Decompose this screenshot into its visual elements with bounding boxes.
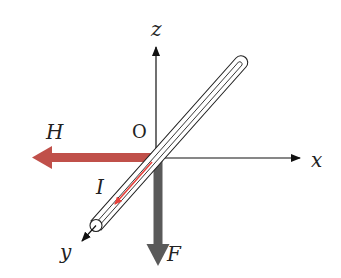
h-field-label: H	[45, 120, 64, 144]
origin-label: O	[132, 121, 147, 142]
y-axis-label: y	[59, 240, 72, 264]
z-axis-label: z	[150, 17, 162, 41]
diagram-canvas: z x y O H F I	[0, 0, 341, 278]
y-axis	[82, 226, 96, 242]
conductor-rod	[90, 56, 248, 232]
force-label: F	[166, 242, 182, 266]
current-label: I	[95, 175, 105, 199]
current-arrow	[115, 162, 152, 204]
x-axis-label: x	[311, 148, 322, 172]
h-field-arrow	[32, 146, 156, 169]
